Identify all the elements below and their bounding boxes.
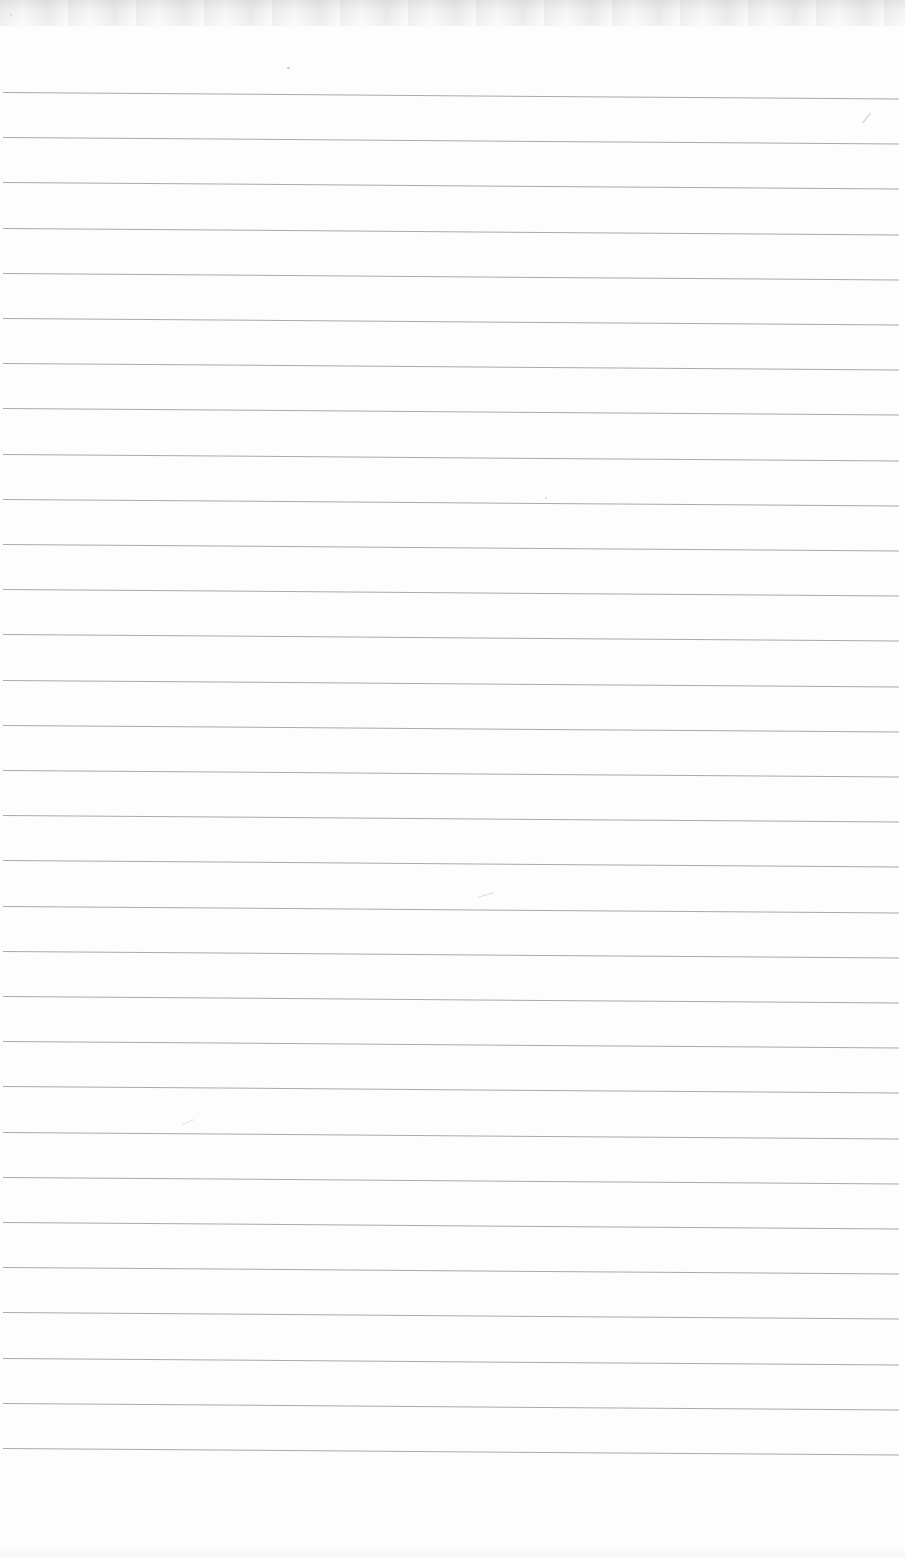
ruled-line [3, 1403, 899, 1411]
ruled-line [3, 951, 899, 959]
ruled-line [3, 228, 899, 236]
slash-top-right [863, 113, 871, 123]
ruled-line [3, 1177, 899, 1185]
ruled-line [3, 589, 899, 597]
ruled-line [3, 1086, 899, 1094]
ruled-line [3, 996, 899, 1004]
ruled-line [3, 137, 899, 145]
ruled-line [3, 454, 899, 462]
ruled-line [3, 1222, 899, 1230]
ruled-line [3, 860, 899, 868]
speck-top-center-left [287, 67, 290, 69]
ruled-line [3, 499, 899, 507]
ruled-line [3, 906, 899, 914]
ruled-line [3, 815, 899, 823]
ruled-line [3, 544, 899, 552]
ruled-line [3, 318, 899, 326]
smudge-left [182, 1119, 194, 1125]
notebook-page [0, 0, 905, 1557]
ruled-line [3, 273, 899, 281]
speck-middle [545, 497, 547, 499]
ruled-line [3, 182, 899, 190]
speck-top-left [10, 14, 12, 16]
ruled-line [3, 1358, 899, 1366]
ruled-line [3, 408, 899, 416]
ruled-line [3, 92, 899, 100]
ruled-line [3, 770, 899, 778]
ruled-line [3, 363, 899, 371]
ruled-line [3, 1267, 899, 1275]
ruled-line [3, 680, 899, 688]
ruled-line [3, 1448, 899, 1456]
ruled-line [3, 1312, 899, 1320]
ruled-line [3, 725, 899, 733]
ruled-line [3, 634, 899, 642]
smudge-center [477, 892, 494, 898]
ruled-line [3, 1041, 899, 1049]
scan-bottom-edge [0, 1547, 905, 1557]
ruled-line [3, 1132, 899, 1140]
scan-top-edge [0, 0, 905, 26]
